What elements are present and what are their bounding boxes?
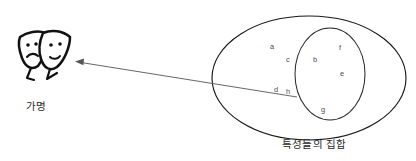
- pseudonym-label: 가명: [26, 98, 46, 113]
- set-of-characteristics-label: 특성들의 집합: [282, 136, 346, 151]
- mask-right-shape: [40, 31, 70, 69]
- diagram-canvas: a c d h b f e g 가명 특성들의 집합: [0, 0, 416, 161]
- mask-left-eye-1: [26, 43, 30, 47]
- mask-left-eye-2: [34, 42, 38, 46]
- arrow-head-icon: [75, 59, 84, 66]
- theater-masks-icon: [19, 31, 70, 80]
- mask-leg-right: [47, 69, 57, 79]
- mask-leg-left: [27, 68, 34, 80]
- set-element-c: c: [286, 55, 290, 64]
- set-element-h: h: [286, 87, 290, 96]
- mask-right-eye-1: [49, 43, 53, 47]
- set-element-a: a: [270, 42, 275, 51]
- outer-set-ellipse: [212, 16, 406, 140]
- set-element-e: e: [340, 69, 344, 78]
- inner-set-ellipse: [295, 28, 365, 120]
- set-element-letters: a c d h b f e g: [270, 42, 344, 114]
- set-element-d: d: [274, 85, 278, 94]
- set-element-f: f: [339, 43, 342, 52]
- set-element-g: g: [321, 105, 325, 114]
- set-element-b: b: [313, 55, 317, 64]
- diagram-graphic: a c d h b f e g: [0, 0, 416, 161]
- pointer-line: [78, 62, 297, 97]
- mask-right-eye-2: [58, 42, 62, 46]
